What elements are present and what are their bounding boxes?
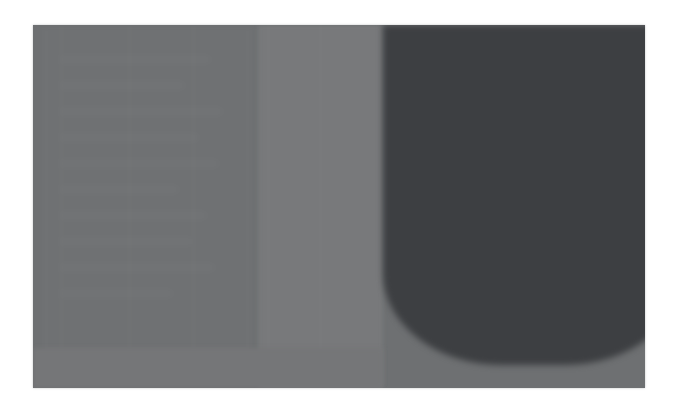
sidebar-item-row[interactable]	[60, 160, 218, 167]
sidebar-item-row[interactable]	[60, 82, 184, 89]
dark-panel-striation	[629, 25, 630, 365]
dark-panel-striation	[485, 25, 486, 365]
application-window	[33, 25, 645, 388]
sidebar-card	[45, 29, 249, 350]
dark-panel-striation	[539, 25, 540, 365]
status-strip[interactable]	[33, 348, 383, 388]
dark-panel[interactable]	[383, 25, 645, 365]
sidebar-item-row[interactable]	[60, 56, 210, 63]
sidebar-item-row[interactable]	[60, 108, 222, 115]
screenshot-canvas	[0, 0, 675, 409]
dark-panel-striation	[421, 25, 422, 365]
dark-panel-striation	[589, 25, 590, 365]
sidebar-item-row[interactable]	[60, 290, 172, 297]
sidebar-item-row[interactable]	[60, 134, 198, 141]
sidebar-item-row[interactable]	[60, 264, 214, 271]
sidebar-item-row[interactable]	[60, 238, 192, 245]
content-divider	[320, 25, 321, 388]
sidebar-panel[interactable]	[33, 25, 258, 388]
sidebar-item-row[interactable]	[60, 212, 206, 219]
content-band[interactable]	[258, 25, 383, 388]
content-divider	[268, 25, 269, 388]
sidebar-item-row[interactable]	[60, 186, 178, 193]
